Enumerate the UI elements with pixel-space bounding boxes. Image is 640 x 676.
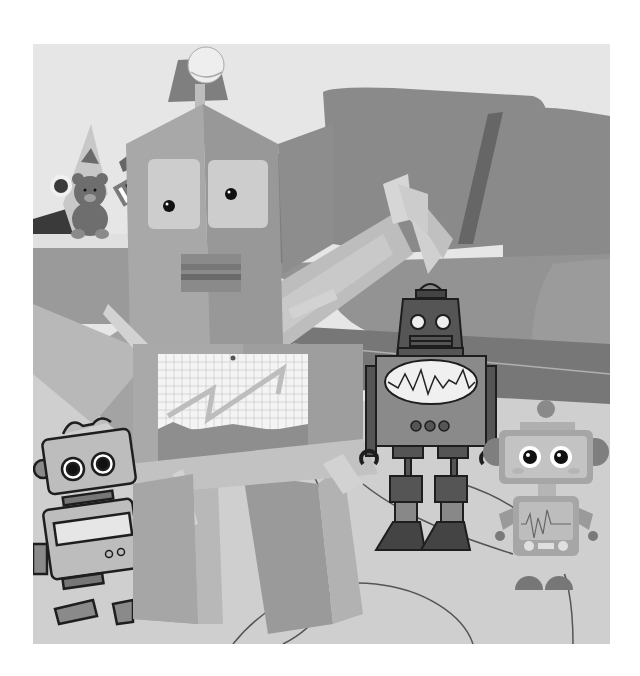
box-robot-leg-left-front (133, 474, 198, 624)
box-robot-mouth (181, 254, 241, 292)
box-robot-eye-right (208, 160, 268, 228)
robot-left-head (42, 428, 137, 495)
waveform-screen (385, 360, 477, 404)
illustration-scene (33, 44, 610, 644)
box-robot-eye-left (148, 159, 200, 229)
robot-living-room-illustration (33, 44, 610, 644)
